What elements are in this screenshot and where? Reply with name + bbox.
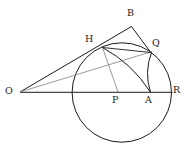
- geometry-canvas: [0, 0, 193, 155]
- segment-H-P: [103, 48, 119, 93]
- segment-B-Q: [132, 27, 152, 54]
- geometry-figure: B H Q O P A R: [0, 0, 193, 155]
- point-label-Q: Q: [152, 38, 160, 48]
- point-label-R: R: [173, 85, 180, 95]
- point-label-P: P: [112, 95, 118, 105]
- point-label-H: H: [85, 34, 93, 44]
- point-label-O: O: [5, 86, 13, 96]
- point-label-B: B: [127, 8, 134, 18]
- arc-Q-A: [148, 53, 152, 93]
- point-label-A: A: [145, 95, 152, 105]
